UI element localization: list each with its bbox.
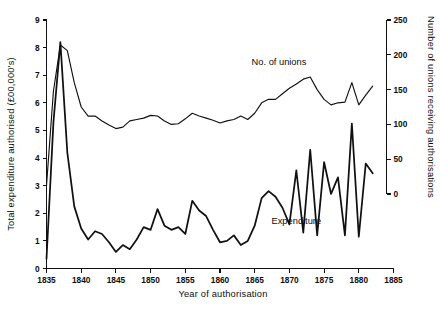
x-tick-label: 1865 <box>245 275 264 285</box>
x-tick-label: 1885 <box>384 275 403 285</box>
y2-tick-label: 50 <box>394 154 404 164</box>
bottom-axis: 1835184018451850185518601865187018751880… <box>37 269 403 300</box>
y-tick-label: 4 <box>35 153 40 163</box>
y2-tick-label: 0 <box>394 189 399 199</box>
left-axis: 0123456789 Total expenditure authorised … <box>6 15 47 274</box>
series-line-expenditure <box>47 42 373 259</box>
y-tick-label: 6 <box>35 98 40 108</box>
series-group <box>47 42 373 259</box>
y-tick-label: 0 <box>35 264 40 274</box>
x-tick-label: 1850 <box>141 275 160 285</box>
x-tick-label: 1835 <box>37 275 56 285</box>
y2-tick-label: 100 <box>394 119 408 129</box>
y2-axis-title: Number of unions receiving authorisation… <box>426 16 436 198</box>
x-tick-label: 1840 <box>72 275 91 285</box>
chart-container: 0123456789 Total expenditure authorised … <box>0 0 440 312</box>
x-tick-label: 1860 <box>211 275 230 285</box>
y-tick-label: 9 <box>35 15 40 25</box>
left-axis-ticks: 0123456789 <box>35 15 47 274</box>
x-axis-ticks: 1835184018451850185518601865187018751880… <box>37 269 403 286</box>
x-tick-label: 1875 <box>315 275 334 285</box>
right-axis: 050100150200250 Number of unions receivi… <box>387 15 437 199</box>
y-axis-title: Total expenditure authorised (£00,000's) <box>6 57 16 231</box>
x-axis-title: Year of authorisation <box>178 289 267 299</box>
y-tick-label: 7 <box>35 70 40 80</box>
x-tick-label: 1845 <box>107 275 126 285</box>
y-tick-label: 2 <box>35 208 40 218</box>
y2-tick-label: 150 <box>394 85 408 95</box>
x-tick-label: 1870 <box>280 275 299 285</box>
right-axis-ticks: 050100150200250 <box>387 15 408 199</box>
y-tick-label: 3 <box>35 181 40 191</box>
y-tick-label: 5 <box>35 125 40 135</box>
y-tick-label: 1 <box>35 236 40 246</box>
y2-tick-label: 200 <box>394 50 408 60</box>
y-tick-label: 8 <box>35 43 40 53</box>
annotation-no-of-unions: No. of unions <box>252 57 307 67</box>
line-chart: 0123456789 Total expenditure authorised … <box>0 0 440 312</box>
x-tick-label: 1855 <box>176 275 195 285</box>
x-tick-label: 1880 <box>350 275 369 285</box>
annotations-group: No. of unions Expenditure <box>252 57 322 226</box>
y2-tick-label: 250 <box>394 15 408 25</box>
annotation-expenditure: Expenditure <box>272 216 322 226</box>
